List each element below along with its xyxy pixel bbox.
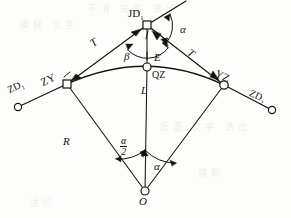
half-alpha-denominator: 2: [120, 146, 127, 157]
label-alpha-o: α: [154, 161, 160, 172]
label-half-alpha: α 2: [120, 136, 127, 157]
label-beta: β: [124, 51, 129, 62]
arrow-alpha-jd-top: [164, 14, 170, 21]
label-curve-length: L: [141, 85, 147, 96]
marker-zd2: [268, 106, 275, 113]
marker-zd1: [14, 103, 21, 110]
arrow-alpha-o-right: [170, 160, 176, 166]
back-tangent-line: [20, 1, 186, 106]
label-o: O: [139, 196, 147, 207]
marker-o: [141, 187, 149, 195]
radius-left: [67, 84, 145, 191]
label-alpha-jd: α: [180, 24, 186, 35]
half-alpha-numerator: α: [120, 136, 127, 146]
label-radius: R: [63, 136, 70, 147]
t-left-tick-zy: [64, 72, 70, 77]
label-jd1: JD1: [128, 8, 144, 22]
arrow-t-right-head-jd: [152, 31, 161, 40]
figure-canvas: 不清 背面 透印 模糊 文字 反面 文字 透出 模糊 透印: [0, 0, 291, 218]
marker-qz: [143, 63, 151, 71]
label-external: E: [154, 52, 161, 63]
label-qz: QZ: [152, 70, 165, 80]
marker-jd: [143, 21, 151, 29]
radius-right: [145, 85, 224, 191]
arrow-t-left-head-jd: [131, 29, 141, 36]
beta-arc-jd: [128, 48, 168, 58]
marker-zy: [63, 80, 71, 88]
curve-diagram-svg: [0, 0, 291, 218]
